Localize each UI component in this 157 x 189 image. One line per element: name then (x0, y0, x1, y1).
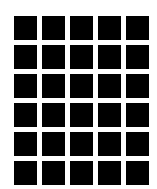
grid-square (126, 161, 149, 185)
grid-square (42, 45, 65, 69)
grid-square (126, 45, 149, 69)
grid-square (126, 16, 149, 40)
grid-square (42, 103, 65, 127)
grid-square (126, 103, 149, 127)
grid-square (70, 45, 93, 69)
grid-square (126, 74, 149, 98)
grid-square (14, 161, 37, 185)
grid-square (98, 132, 121, 156)
grid-square (98, 45, 121, 69)
square-grid (14, 16, 149, 185)
grid-square (14, 74, 37, 98)
grid-square (14, 132, 37, 156)
grid-square (98, 74, 121, 98)
grid-square (42, 16, 65, 40)
grid-square (42, 132, 65, 156)
grid-square (14, 103, 37, 127)
grid-square (14, 16, 37, 40)
grid-square (126, 132, 149, 156)
grid-square (42, 161, 65, 185)
grid-square (14, 45, 37, 69)
grid-square (70, 74, 93, 98)
grid-square (70, 132, 93, 156)
grid-square (98, 16, 121, 40)
grid-square (70, 161, 93, 185)
grid-square (98, 161, 121, 185)
grid-square (70, 103, 93, 127)
grid-square (98, 103, 121, 127)
grid-square (70, 16, 93, 40)
grid-square (42, 74, 65, 98)
